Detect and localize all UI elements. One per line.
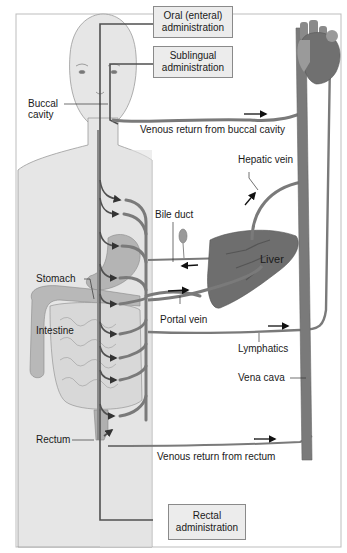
buccal-cavity-label: Buccal cavity: [28, 98, 58, 120]
sublingual-box-line2: administration: [154, 62, 232, 74]
venous-return-buccal-label: Venous return from buccal cavity: [140, 124, 285, 135]
hepatic-vein-label: Hepatic vein: [238, 154, 293, 165]
rectal-administration-box: Rectal administration: [168, 504, 246, 540]
stomach-label: Stomach: [36, 273, 75, 284]
sublingual-box-line1: Sublingual: [154, 50, 232, 62]
intestine-label: Intestine: [36, 325, 74, 336]
oral-box-line1: Oral (enteral): [154, 10, 232, 22]
oral-administration-box: Oral (enteral) administration: [153, 6, 233, 38]
lymphatics-label: Lymphatics: [238, 343, 288, 354]
venous-buccal-vessel: [112, 112, 305, 121]
vena-cava-label: Vena cava: [238, 372, 285, 383]
sublingual-administration-box: Sublingual administration: [153, 46, 233, 78]
portal-vein-label: Portal vein: [160, 314, 207, 325]
bile-duct-label: Bile duct: [155, 209, 193, 220]
liver-label: Liver: [260, 254, 284, 265]
rectal-box-line2: administration: [169, 522, 245, 534]
oral-box-line2: administration: [154, 22, 232, 34]
rectal-box-line1: Rectal: [169, 510, 245, 522]
venous-return-rectum-label: Venous return from rectum: [157, 451, 275, 462]
rectum-label: Rectum: [36, 434, 70, 445]
gallbladder: [179, 229, 187, 243]
liver: [208, 230, 299, 308]
